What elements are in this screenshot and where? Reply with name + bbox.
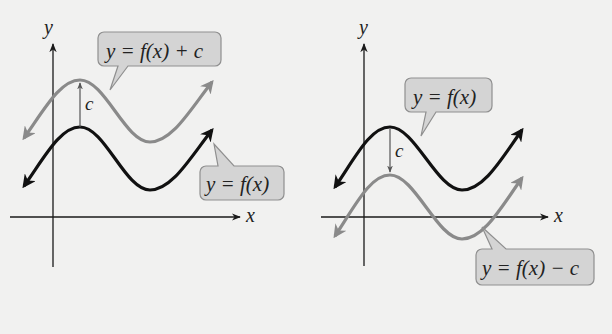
left-y-axis-label: y (42, 16, 53, 39)
right-y-axis-label: y (357, 16, 368, 39)
left-shifted-curve (24, 80, 212, 142)
right-shift-label: c (395, 140, 404, 161)
left-panel: x y c y = f(x) + c y = f(x) (10, 16, 284, 267)
left-shifted-callout: y = f(x) + c (98, 32, 221, 90)
right-x-axis-label: x (553, 204, 563, 226)
left-original-callout-text: y = f(x) (204, 172, 269, 196)
right-panel: x y c y = f(x) y = f(x) − c (321, 16, 594, 285)
right-shifted-callout: y = f(x) − c (476, 227, 594, 285)
left-shift-label: c (85, 93, 94, 114)
left-original-callout: y = f(x) (200, 144, 284, 200)
right-original-callout: y = f(x) (405, 78, 492, 136)
right-shifted-callout-text: y = f(x) − c (480, 256, 580, 280)
left-original-curve (24, 127, 212, 190)
right-original-callout-text: y = f(x) (411, 85, 476, 109)
diagram-canvas: x y c y = f(x) + c y = f(x) x y c (0, 0, 612, 334)
right-shifted-curve (335, 175, 522, 239)
left-x-axis-label: x (245, 204, 255, 226)
left-shifted-callout-text: y = f(x) + c (104, 39, 204, 63)
right-original-curve (335, 127, 522, 190)
